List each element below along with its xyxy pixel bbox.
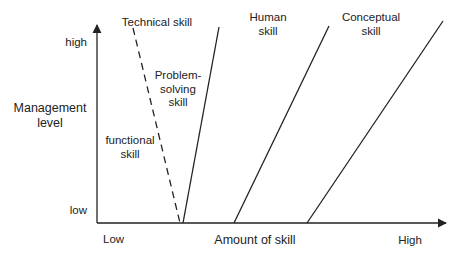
y-tick-high: high — [65, 36, 87, 48]
human-skill-label-line2: skill — [258, 25, 277, 37]
functional-skill-label-line2: skill — [120, 148, 139, 160]
conceptual-skill-line — [307, 21, 443, 223]
problem-solving-label-line1: Problem- — [155, 69, 202, 81]
technical-skill-label: Technical skill — [122, 16, 192, 28]
y-axis-label-line1: Management — [14, 101, 87, 115]
x-tick-high: High — [398, 234, 422, 246]
problem-solving-label-line2: solving — [160, 83, 196, 95]
functional-skill-label-line1: functional — [105, 134, 154, 146]
conceptual-skill-label-line2: skill — [361, 25, 380, 37]
human-skill-line — [234, 26, 329, 223]
x-tick-low: Low — [103, 233, 125, 245]
problem-solving-label-line3: skill — [168, 96, 187, 108]
technical-skill-line — [133, 28, 180, 223]
y-axis-label-line2: level — [37, 116, 63, 130]
conceptual-skill-label-line1: Conceptual — [342, 11, 400, 23]
skill-diagram: high low Management level Low Amount of … — [0, 0, 466, 259]
y-tick-low: low — [70, 204, 88, 216]
human-skill-label-line1: Human — [249, 11, 286, 23]
problem-solving-skill-line — [183, 27, 219, 223]
x-axis-label: Amount of skill — [214, 233, 295, 247]
